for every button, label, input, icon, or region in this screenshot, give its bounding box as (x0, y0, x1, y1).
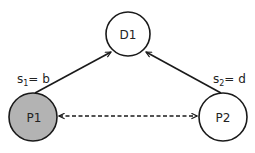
edge-p2-to-d1 (146, 52, 221, 93)
node-d1-label: D1 (120, 28, 137, 42)
diagram-canvas: D1 P1 P2 s1= b s2= d (0, 0, 255, 153)
edge-label-s2-rest: = d (224, 72, 246, 86)
edge-label-s2: s2= d (213, 72, 246, 88)
edge-label-s1-rest: = b (28, 72, 50, 86)
node-d1: D1 (106, 12, 150, 56)
edge-label-s1: s1= b (17, 72, 50, 88)
node-p2-label: P2 (216, 111, 231, 125)
node-p2: P2 (199, 93, 247, 141)
node-p1-label: P1 (27, 111, 42, 125)
node-p1: P1 (9, 93, 57, 141)
